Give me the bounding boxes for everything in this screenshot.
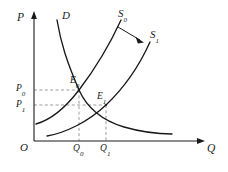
y-tick-label-p0: P0 [16, 84, 25, 94]
figure-canvas [0, 0, 228, 172]
point-label-e1: E1 [97, 92, 106, 102]
y-axis-label: P [17, 12, 24, 24]
demand-curve-label: D [62, 10, 70, 21]
supply-demand-figure: P Q O D S0 S1 E0 E1 P0 P1 Q0 Q1 [0, 0, 228, 172]
supply-curve-s0 [36, 20, 121, 124]
y-tick-label-p1: P1 [16, 100, 25, 110]
supply-curve-s1-label: S1 [150, 29, 159, 40]
supply-shift-arrowhead [136, 37, 144, 44]
origin-label: O [20, 142, 28, 153]
point-label-e0: E0 [70, 76, 79, 86]
x-axis-label: Q [207, 143, 215, 155]
supply-curve-s0-label: S0 [118, 8, 127, 19]
x-axis-arrowhead [197, 138, 205, 144]
x-tick-label-q0: Q0 [73, 144, 83, 154]
supply-curve-s1 [47, 42, 150, 136]
y-axis-arrowhead [31, 11, 37, 19]
x-tick-label-q1: Q1 [100, 144, 110, 154]
guide-lines [34, 90, 106, 141]
supply-shift-arrow [118, 27, 144, 44]
axes [31, 11, 205, 144]
